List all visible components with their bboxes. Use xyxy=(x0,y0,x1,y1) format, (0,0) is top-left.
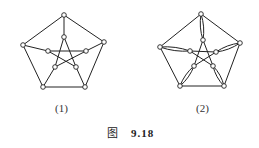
vertex xyxy=(53,65,58,70)
edge-parallel xyxy=(216,43,240,52)
edge xyxy=(43,67,55,87)
edge xyxy=(64,15,104,42)
edge-parallel xyxy=(213,66,224,86)
vertex xyxy=(84,49,89,54)
vertex xyxy=(102,40,107,45)
vertex xyxy=(158,45,163,50)
vertex xyxy=(83,85,88,90)
edge xyxy=(201,14,240,43)
edge xyxy=(23,45,48,51)
edge-parallel xyxy=(213,66,224,86)
vertex xyxy=(199,12,204,17)
figure-caption: 图9.18 xyxy=(107,124,154,140)
edge xyxy=(160,47,180,86)
vertex xyxy=(222,84,227,89)
edge xyxy=(48,51,76,67)
vertex xyxy=(192,64,197,69)
vertex xyxy=(188,49,193,54)
vertex xyxy=(178,84,183,89)
edge xyxy=(194,40,203,66)
edge xyxy=(64,37,76,67)
vertex xyxy=(62,35,67,40)
edge xyxy=(85,42,104,87)
vertex xyxy=(46,49,51,54)
edge-parallel xyxy=(180,66,194,86)
vertex xyxy=(41,85,46,90)
edge xyxy=(23,45,43,87)
subfigure-1-label: (1) xyxy=(55,102,68,114)
vertex xyxy=(238,41,243,46)
vertex xyxy=(201,38,206,43)
edge xyxy=(203,40,213,66)
caption-number: 9.18 xyxy=(131,127,154,139)
subfigure-2-label: (2) xyxy=(196,102,209,114)
vertex xyxy=(74,65,79,70)
edge-parallel xyxy=(180,66,194,86)
vertex xyxy=(21,43,26,48)
caption-prefix: 图 xyxy=(107,127,119,139)
vertex xyxy=(62,13,67,18)
edge xyxy=(76,67,85,87)
edge-parallel xyxy=(216,43,240,52)
edge xyxy=(190,51,216,52)
edge xyxy=(23,15,64,45)
subfigure-2-doubled-spoke-graph xyxy=(158,12,243,89)
vertex xyxy=(214,50,219,55)
subfigure-1-petersen-graph xyxy=(21,13,107,90)
edge xyxy=(160,14,201,47)
vertex xyxy=(211,64,216,69)
